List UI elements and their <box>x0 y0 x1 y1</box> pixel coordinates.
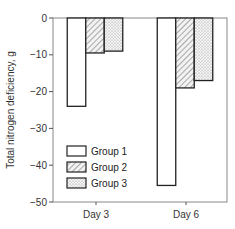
y-tick-label: −40 <box>30 160 47 171</box>
y-tick-label: 0 <box>41 13 47 24</box>
y-tick-label: −10 <box>30 49 47 60</box>
legend-swatch <box>67 146 86 156</box>
x-axis: Day 3Day 6 <box>83 202 200 220</box>
y-axis: 0−10−20−30−40−50 <box>30 13 53 208</box>
x-tick-label: Day 6 <box>173 209 200 220</box>
y-axis-label: Total nitrogen deficiency, g <box>5 51 16 169</box>
y-tick-label: −30 <box>30 123 47 134</box>
bar-series <box>67 18 213 185</box>
y-tick-label: −50 <box>30 197 47 208</box>
bar-group-1-day-3 <box>67 18 86 106</box>
y-tick-label: −20 <box>30 86 47 97</box>
bar-group-2-day-6 <box>176 18 195 88</box>
bar-chart: 0−10−20−30−40−50 Day 3Day 6 Group 1Group… <box>0 0 235 229</box>
legend-swatch <box>67 162 86 172</box>
legend-label: Group 1 <box>91 146 128 157</box>
legend-label: Group 2 <box>91 162 128 173</box>
bar-group-2-day-3 <box>86 18 105 53</box>
legend-label: Group 3 <box>91 178 128 189</box>
bar-group-1-day-6 <box>157 18 176 185</box>
legend: Group 1Group 2Group 3 <box>67 146 128 189</box>
bar-group-3-day-6 <box>194 18 213 81</box>
bar-group-3-day-3 <box>104 18 123 51</box>
legend-swatch <box>67 178 86 188</box>
x-tick-label: Day 3 <box>83 209 110 220</box>
